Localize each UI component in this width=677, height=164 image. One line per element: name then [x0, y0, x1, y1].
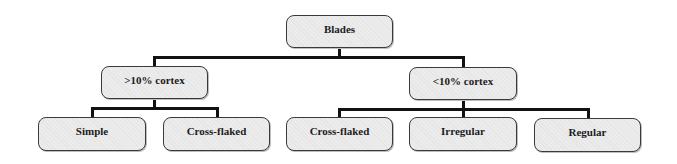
node-gt10-cross-flaked: Cross-flaked [163, 117, 270, 151]
node-label: Cross-flaked [310, 125, 370, 137]
node-label: <10% cortex [433, 75, 493, 87]
connector-level1-bar [153, 56, 465, 59]
node-irregular: Irregular [409, 117, 517, 151]
node-label: Regular [569, 126, 607, 138]
node-lt10-cross-flaked: Cross-flaked [286, 117, 393, 151]
node-label: >10% cortex [124, 74, 184, 86]
blade-classification-tree: Blades >10% cortex <10% cortex Simple Cr… [0, 0, 677, 164]
connector-to-regular [587, 108, 590, 118]
node-label: Blades [324, 23, 355, 35]
node-regular: Regular [534, 118, 641, 152]
node-label: Cross-flaked [187, 125, 247, 137]
node-label: Irregular [441, 125, 485, 137]
node-simple: Simple [38, 117, 146, 151]
node-label: Simple [76, 125, 108, 137]
node-gt10-cortex: >10% cortex [101, 66, 208, 99]
connector-gt10-bar [91, 107, 219, 110]
node-blades: Blades [286, 15, 393, 48]
node-lt10-cortex: <10% cortex [409, 67, 517, 100]
